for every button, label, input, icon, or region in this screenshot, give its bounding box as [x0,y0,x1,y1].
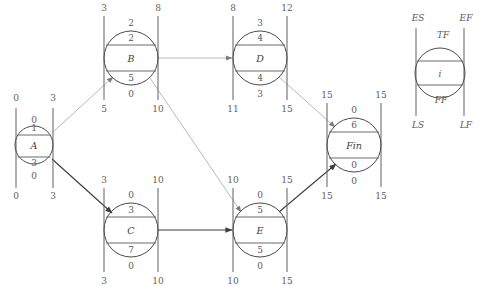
edge-layer [52,58,336,230]
node-a-ls: 0 [13,192,19,201]
node-a-finish: 3 [31,159,37,168]
node-a-ef: 3 [50,94,56,103]
node-e-ef: 15 [281,176,292,185]
node-b-tf: 2 [128,19,134,28]
node-c-duration: 3 [128,206,134,215]
node-c-ef: 10 [152,176,163,185]
node-d-ef: 12 [281,4,292,13]
node-c-ff: 0 [128,262,134,271]
node-d-label: D [256,54,264,64]
legend-lf-label: LF [460,121,472,130]
node-fin-tf: 0 [351,106,357,115]
network-diagram-canvas: 0 3 0 3 0 1 A 3 0 3 8 5 10 2 2 B 5 0 8 1… [0,0,483,298]
node-d-ff: 3 [257,90,263,99]
node-b-es: 3 [101,4,107,13]
legend-tf-label: TF [437,31,449,40]
node-e-lf: 15 [281,277,292,286]
edge-a-c [52,159,112,213]
node-a-ff: 0 [31,172,37,181]
node-d-ls: 11 [227,105,238,114]
node-b-ef: 8 [155,4,161,13]
node-d-finish: 4 [257,74,263,83]
node-fin-es: 15 [321,91,332,100]
node-b-ff: 0 [128,90,134,99]
node-e-finish: 5 [257,246,263,255]
node-fin-ef: 15 [375,91,386,100]
node-e-label: E [257,226,264,236]
node-e-duration: 5 [257,206,263,215]
network-graph-svg [0,0,483,298]
node-fin-lf: 15 [375,192,386,201]
node-fin-label: Fin [346,141,362,151]
node-b-finish: 5 [128,74,134,83]
node-c-lf: 10 [152,277,163,286]
legend-ff-label: FF [435,96,448,105]
node-a-duration: 1 [31,124,37,133]
node-d-lf: 15 [281,105,292,114]
node-c-label: C [127,226,134,236]
node-fin-ls: 15 [321,192,332,201]
legend-es-label: ES [412,14,425,23]
node-a-lf: 3 [50,192,56,201]
legend-ef-label: EF [460,14,473,23]
node-fin-duration: 6 [351,121,357,130]
node-d-tf: 3 [257,19,263,28]
node-c-ls: 3 [101,277,107,286]
node-e-es: 10 [227,176,238,185]
legend-ls-label: LS [412,121,424,130]
node-c-tf: 0 [128,191,134,200]
edge-b-e [150,78,241,212]
node-b-lf: 10 [152,105,163,114]
node-fin-finish: 0 [351,161,357,170]
node-c-es: 3 [101,176,107,185]
node-e-ff: 0 [257,262,263,271]
node-e-tf: 0 [257,191,263,200]
node-c-finish: 7 [128,246,134,255]
node-b-duration: 2 [128,34,134,43]
node-d-es: 8 [230,4,236,13]
node-a-es: 0 [13,94,19,103]
node-fin-ff: 0 [351,177,357,186]
node-e-ls: 10 [227,277,238,286]
legend-id-label: i [439,70,442,79]
node-d-duration: 4 [257,34,263,43]
node-b-ls: 5 [101,105,107,114]
node-a-label: A [31,141,38,151]
node-b-label: B [128,54,135,64]
